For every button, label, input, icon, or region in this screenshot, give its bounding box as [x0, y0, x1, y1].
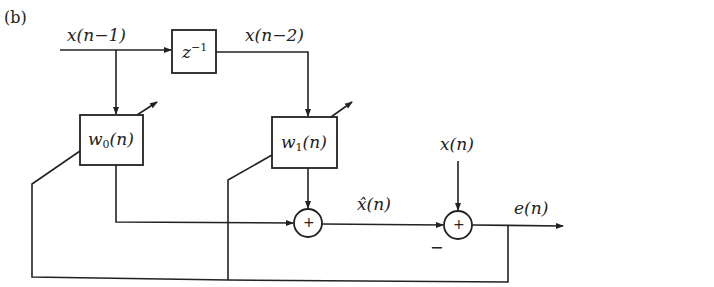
weight1-label-arg: (n) — [303, 132, 327, 152]
label-x-hat-n: x̂(n) — [357, 196, 391, 213]
label-x-n-minus-1: x(n−1) — [67, 27, 126, 44]
error-output-line — [472, 225, 563, 226]
weight1-label: w1(n) — [281, 134, 327, 153]
weight1-label-sub: 1 — [296, 141, 303, 154]
delay-label: z−1 — [182, 42, 207, 61]
weight0-label: w0(n) — [88, 131, 134, 150]
estimate-line — [322, 224, 443, 225]
label-e-n: e(n) — [514, 200, 548, 217]
weight0-output-line — [116, 165, 293, 223]
weight0-label-arg: (n) — [110, 129, 134, 149]
label-x-n-minus-2: x(n−2) — [245, 27, 304, 44]
weight1-adapt-arrow — [331, 102, 352, 117]
tap1-line — [216, 52, 308, 116]
error-feedback-w0 — [32, 151, 508, 282]
error-feedback-w1 — [228, 155, 272, 280]
delay-label-base: z — [182, 42, 191, 62]
weight0-adapt-arrow — [137, 102, 157, 115]
weight0-label-sub: 0 — [103, 138, 110, 151]
summer2-minus-sign: − — [430, 240, 443, 256]
label-x-n: x(n) — [440, 136, 474, 153]
weight0-label-base: w — [88, 129, 103, 149]
summer1-plus-sign: + — [303, 215, 315, 229]
adaptive-predictor-diagram: (b) x(n−1) x(n−2) x(n) x̂(n) e(n) z−1 w0… — [0, 0, 714, 287]
weight1-label-base: w — [281, 132, 296, 152]
panel-label: (b) — [4, 10, 27, 26]
delay-label-exp: −1 — [191, 41, 207, 54]
summer2-plus-sign: + — [453, 217, 465, 231]
